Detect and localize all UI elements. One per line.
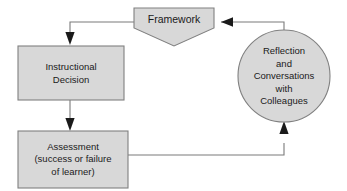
arrowhead-up-icon: [279, 121, 288, 134]
diagram-graphics: [0, 0, 347, 191]
node-reflection-shape[interactable]: [238, 30, 330, 122]
arrowhead-left-icon: [221, 17, 233, 27]
connector-framework-to-instructional-decision: [65, 22, 134, 45]
node-instructional-decision-shape[interactable]: [18, 46, 124, 100]
node-assessment-shape[interactable]: [18, 131, 128, 188]
arrowhead-down-icon: [65, 118, 74, 131]
connector-reflection-to-framework: [221, 17, 284, 30]
diagram-canvas: Framework Instructional Decision Assessm…: [0, 0, 347, 191]
connector-instructional-decision-to-assessment: [65, 100, 74, 131]
node-framework-shape[interactable]: [134, 8, 214, 46]
arrowhead-down-icon: [65, 32, 74, 45]
connector-assessment-to-reflection: [128, 121, 289, 155]
